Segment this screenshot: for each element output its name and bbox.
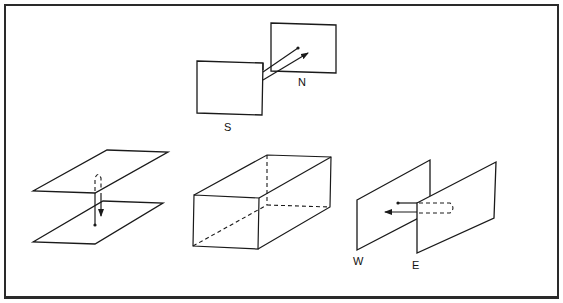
- box-edge: [259, 157, 331, 198]
- flux-origin-dot: [93, 223, 96, 226]
- north-plane: [271, 23, 336, 73]
- panel-vertical: [33, 150, 168, 244]
- label-south: S: [224, 121, 231, 133]
- panel-east-west: W E: [353, 160, 496, 271]
- lower-plane: [33, 201, 163, 244]
- panel-box: [193, 155, 331, 249]
- south-plane: [197, 61, 263, 115]
- label-north: N: [298, 76, 306, 88]
- flux-origin-dot: [296, 46, 299, 49]
- panel-north-south: S N: [197, 23, 336, 133]
- label-east: E: [412, 259, 419, 271]
- flux-origin-dot: [396, 201, 399, 204]
- diagram-canvas: S N W E: [0, 0, 563, 303]
- label-west: W: [353, 255, 364, 267]
- hidden-edge: [193, 205, 267, 246]
- hidden-edge: [267, 205, 330, 207]
- box-front-face: [193, 195, 259, 249]
